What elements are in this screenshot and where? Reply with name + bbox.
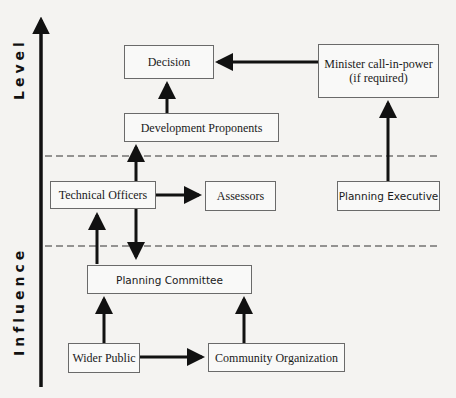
node-development-proponents-label: Development Proponents	[141, 121, 263, 135]
node-planning-committee-label: Planning Committee	[116, 273, 223, 287]
node-minister-label-line2: (if required)	[349, 71, 407, 85]
node-decision: Decision	[124, 45, 214, 79]
node-planning-executive: Planning Executive	[337, 181, 440, 211]
node-community-organization-label: Community Organization	[215, 351, 338, 365]
influence-level-diagram: Level Influence Decision Minister call-i…	[0, 0, 456, 398]
node-assessors: Assessors	[205, 181, 276, 211]
axis-label-influence: Influence	[11, 264, 27, 356]
node-planning-executive-label: Planning Executive	[339, 189, 439, 203]
node-minister-call-in-power: Minister call-in-power (if required)	[318, 44, 439, 98]
node-community-organization: Community Organization	[208, 343, 345, 372]
node-decision-label: Decision	[148, 55, 191, 69]
node-technical-officers: Technical Officers	[50, 181, 156, 209]
node-development-proponents: Development Proponents	[124, 113, 279, 142]
node-wider-public: Wider Public	[68, 343, 140, 373]
node-planning-committee: Planning Committee	[87, 265, 252, 294]
node-wider-public-label: Wider Public	[72, 351, 135, 365]
node-minister-label-line1: Minister call-in-power	[324, 57, 432, 71]
axis-label-level: Level	[11, 50, 27, 100]
node-assessors-label: Assessors	[217, 189, 264, 203]
node-technical-officers-label: Technical Officers	[59, 188, 148, 202]
